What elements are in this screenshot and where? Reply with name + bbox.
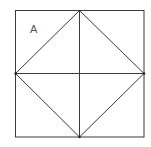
geometry-diagram: A	[0, 0, 151, 147]
vertex-dot-bottom	[78, 136, 80, 138]
region-label-a: A	[30, 23, 38, 35]
vertex-dot-left	[14, 72, 16, 74]
vertex-dot-right	[143, 72, 145, 74]
